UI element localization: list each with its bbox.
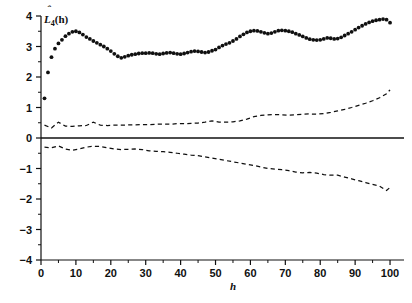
series-l4-estimate	[43, 17, 392, 100]
x-tick-label: 60	[244, 267, 256, 279]
y-tick-label: 0	[26, 132, 32, 144]
data-point	[130, 53, 134, 57]
y-title-arg: (h)	[55, 13, 69, 26]
data-point	[182, 52, 186, 56]
data-point	[74, 29, 78, 33]
data-point	[378, 18, 382, 22]
data-point	[64, 34, 68, 38]
data-point	[280, 28, 284, 32]
data-point	[329, 36, 333, 40]
data-point	[140, 51, 144, 55]
data-point	[43, 96, 47, 100]
data-point	[81, 33, 85, 37]
data-point	[311, 38, 315, 42]
data-point	[88, 37, 92, 41]
data-point	[172, 51, 176, 55]
data-point	[119, 56, 123, 60]
data-point	[102, 45, 106, 49]
data-point	[161, 52, 165, 56]
data-point	[259, 30, 263, 34]
data-point	[266, 32, 270, 36]
upper-envelope-path	[44, 90, 390, 128]
data-point	[175, 52, 179, 56]
data-point	[151, 51, 155, 55]
data-point	[105, 47, 109, 51]
data-point	[353, 28, 357, 32]
x-tick-label: 100	[381, 267, 399, 279]
data-point	[186, 51, 190, 55]
data-point	[388, 21, 392, 25]
data-point	[273, 30, 277, 34]
data-point	[256, 29, 260, 33]
data-point	[116, 54, 120, 58]
data-point	[193, 49, 197, 53]
x-tick-label: 0	[38, 267, 44, 279]
x-axis-title: h	[230, 280, 236, 292]
y-tick-label: −1	[19, 163, 32, 175]
y-tick-label: 3	[26, 41, 32, 53]
data-point	[346, 32, 350, 36]
series-upper-envelope	[44, 90, 390, 128]
y-axis-title: ˆL4(h)	[43, 3, 69, 28]
data-point	[304, 36, 308, 40]
y-tick-labels: 43210−1−2−3−4	[19, 10, 32, 266]
lower-envelope-path	[44, 146, 390, 191]
data-point	[165, 51, 169, 55]
data-point	[95, 41, 99, 45]
data-point	[91, 39, 95, 43]
data-point	[158, 52, 162, 56]
data-point	[315, 38, 319, 42]
data-point	[343, 34, 347, 38]
data-point	[217, 46, 221, 50]
data-point	[367, 21, 371, 25]
data-point	[371, 19, 375, 23]
x-tick-label: 30	[140, 267, 152, 279]
data-point	[189, 50, 193, 54]
data-point	[231, 39, 235, 43]
data-point	[262, 31, 266, 35]
x-tick-label: 90	[349, 267, 361, 279]
chart-svg: 43210−1−2−3−4 0102030405060708090100 ˆL4…	[0, 0, 412, 303]
data-point	[308, 37, 312, 41]
data-point	[154, 52, 158, 56]
x-tick-label: 80	[314, 267, 326, 279]
data-point	[67, 32, 71, 36]
data-point	[224, 42, 228, 46]
data-point	[77, 31, 81, 35]
data-point	[374, 18, 378, 22]
data-point	[235, 37, 239, 41]
data-point	[322, 37, 326, 41]
data-point	[287, 29, 291, 33]
x-tick-label: 40	[174, 267, 186, 279]
data-point	[71, 30, 75, 34]
data-point	[297, 33, 301, 37]
data-point	[290, 30, 294, 34]
data-point	[357, 26, 361, 30]
data-point	[221, 44, 225, 48]
data-point	[168, 51, 172, 55]
x-axis	[41, 260, 404, 265]
data-point	[252, 29, 256, 33]
data-point	[381, 17, 385, 21]
x-tick-label: 20	[105, 267, 117, 279]
data-point	[360, 24, 364, 28]
data-point	[249, 29, 253, 33]
chart-figure: 43210−1−2−3−4 0102030405060708090100 ˆL4…	[0, 0, 412, 303]
x-tick-label: 10	[70, 267, 82, 279]
y-axis	[36, 16, 41, 260]
data-point	[294, 32, 298, 36]
data-point	[53, 47, 57, 51]
x-tick-labels: 0102030405060708090100	[38, 267, 399, 279]
data-point	[210, 49, 214, 53]
data-point	[57, 42, 61, 46]
data-point	[332, 37, 336, 41]
y-tick-label: 1	[26, 102, 32, 114]
data-point	[207, 50, 211, 54]
data-point	[144, 51, 148, 55]
data-point	[98, 43, 102, 47]
data-point	[336, 37, 340, 41]
y-tick-label: −4	[19, 254, 32, 266]
data-point	[325, 36, 329, 40]
data-point	[84, 35, 88, 39]
y-tick-label: 2	[26, 71, 32, 83]
